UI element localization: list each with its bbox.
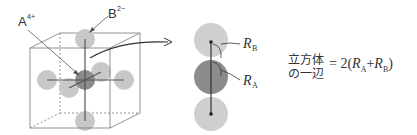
formula-rb: R [374,56,383,71]
formula-lhs: 立方体 の一辺 [288,53,324,81]
bonds [47,39,124,121]
cation-label: A 4+ [18,13,80,76]
formula-ra: R [352,56,361,71]
svg-text:2−: 2− [117,5,125,12]
formula-line2: の一辺 [288,67,324,81]
svg-text:B: B [252,44,257,53]
svg-text:4+: 4+ [27,13,35,20]
formula-line1: 立方体 [288,53,324,67]
detail-stack [194,23,240,131]
cube-edge-formula: 立方体 の一辺 = 2(RA+RB) [288,53,393,81]
formula-close: ) [388,56,393,71]
formula-rhs: = 2(RA+RB) [329,57,393,77]
radius-a-label: R A [242,73,258,90]
anion-label: B 2− [89,5,125,33]
svg-text:R: R [242,36,252,51]
svg-text:A: A [18,14,27,29]
formula-equals: = 2( [329,56,352,71]
svg-text:B: B [108,6,117,21]
svg-text:R: R [242,73,252,88]
svg-text:A: A [252,81,258,90]
radius-b-label: R B [242,36,257,53]
